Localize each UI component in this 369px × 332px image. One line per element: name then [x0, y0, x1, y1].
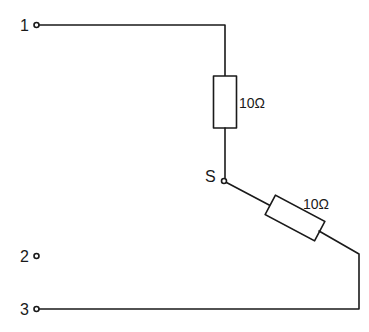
resistor-r1	[214, 76, 237, 128]
terminal-2-label: 2	[20, 248, 29, 265]
wire-s-to-r2	[227, 183, 272, 207]
terminal-2-icon	[34, 254, 39, 259]
node-s-label: S	[205, 168, 216, 185]
wire-r2-to-terminal-3	[39, 231, 359, 309]
resistor-r2-label: 10Ω	[303, 196, 329, 212]
terminal-1-icon	[34, 23, 39, 28]
terminal-1-label: 1	[20, 17, 29, 34]
circuit-diagram: 1 2 3 S 10Ω 10Ω	[0, 0, 369, 332]
wire-terminal-1	[39, 25, 225, 76]
terminal-3-label: 3	[20, 301, 29, 318]
terminal-3-icon	[34, 307, 39, 312]
resistor-r1-label: 10Ω	[239, 95, 265, 111]
